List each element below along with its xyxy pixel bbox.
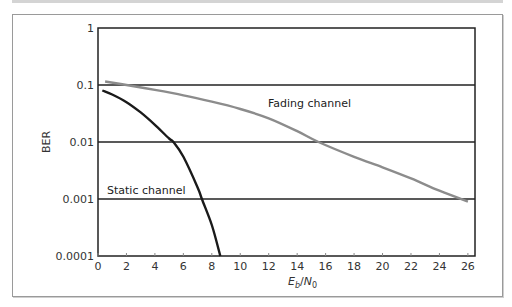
- fading-channel-label: Fading channel: [268, 97, 351, 110]
- x-tick-label: 6: [180, 260, 187, 273]
- y-tick-label: 0.1: [77, 79, 95, 92]
- x-tick-label: 2: [123, 260, 130, 273]
- x-tick-label: 4: [151, 260, 158, 273]
- y-axis-ticks: 10.10.010.0010.0001: [56, 22, 95, 263]
- y-tick-label: 0.0001: [56, 250, 95, 263]
- x-tick-label: 20: [376, 260, 390, 273]
- ber-chart: 02468101214161820222426 10.10.010.0010.0…: [0, 0, 512, 307]
- x-tick-label: 16: [319, 260, 333, 273]
- static-channel-label: Static channel: [107, 184, 185, 197]
- y-tick-label: 0.001: [63, 193, 95, 206]
- x-tick-label: 10: [233, 260, 247, 273]
- x-tick-label: 22: [404, 260, 418, 273]
- x-tick-label: 24: [432, 260, 446, 273]
- x-tick-label: 26: [461, 260, 475, 273]
- static-channel-line: [102, 91, 220, 257]
- x-tick-label: 14: [290, 260, 304, 273]
- x-axis-label: Eb/N0: [288, 275, 317, 290]
- y-tick-label: 0.01: [70, 136, 95, 149]
- x-tick-label: 12: [262, 260, 276, 273]
- x-tick-label: 8: [208, 260, 215, 273]
- y-tick-label: 1: [87, 22, 94, 35]
- y-axis-label: BER: [40, 131, 53, 153]
- x-tick-label: 18: [347, 260, 361, 273]
- x-tick-label: 0: [95, 260, 102, 273]
